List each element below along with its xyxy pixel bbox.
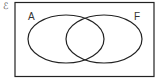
set-a-label: A xyxy=(28,11,35,22)
venn-diagram: A F xyxy=(0,0,159,83)
set-f-label: F xyxy=(134,11,140,22)
